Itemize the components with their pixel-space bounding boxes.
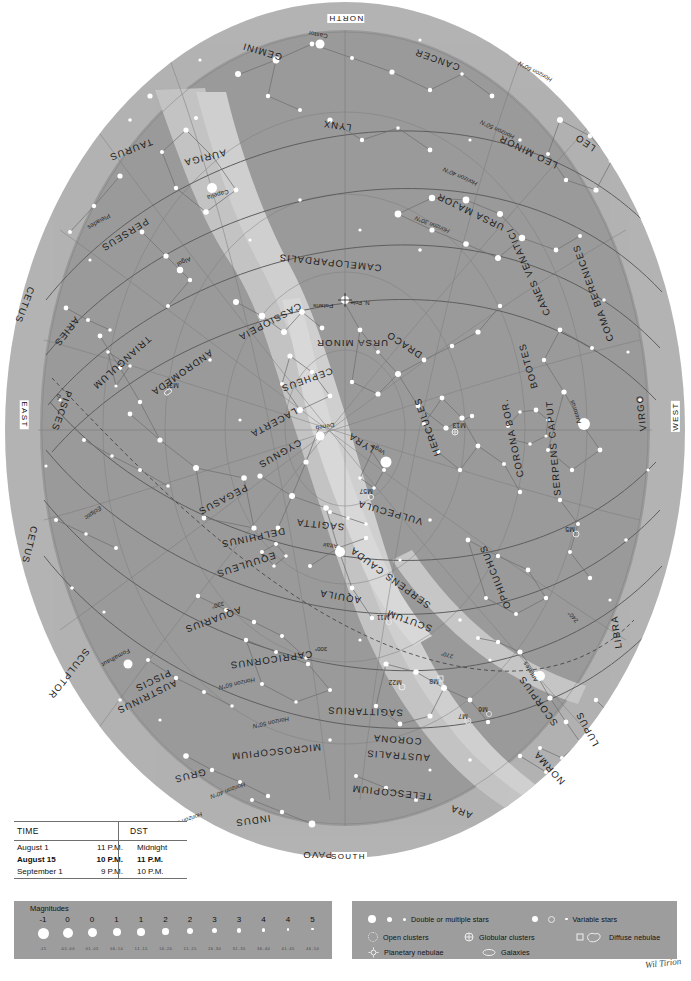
magnitude-dot-icon — [88, 928, 97, 937]
magnitude-value: 1 — [104, 915, 130, 924]
magnitude-dot-icon — [237, 928, 242, 933]
legend-globular-clusters: Globular clusters — [464, 931, 535, 943]
magnitude-entry: 2 — [177, 915, 203, 934]
legend-variable-stars-label: Variable stars — [573, 915, 618, 924]
legend-double-stars-label: Double or multiple stars — [411, 915, 489, 924]
legend-galaxies-label: Galaxies — [501, 948, 530, 957]
galaxy-icon — [482, 946, 496, 958]
time-row-time: 9 P.M. — [79, 867, 131, 876]
magnitude-entry: 0 — [79, 915, 105, 937]
magnitude-value: 5 — [300, 915, 326, 924]
magnitude-entry: 5 — [300, 915, 326, 930]
legend-planetary-nebulae-label: Planetary nebulae — [384, 948, 444, 957]
legend-diffuse-nebulae: Diffuse nebulae — [576, 931, 660, 943]
magnitude-dot-icon — [137, 928, 145, 936]
time-row-date: August 15 — [14, 855, 79, 864]
time-row-time: 11 P.M. — [79, 843, 131, 852]
time-row-dst: Midnight — [131, 843, 167, 852]
magnitude-dot-icon — [38, 928, 49, 939]
magnitude-entry: 0 — [55, 915, 81, 938]
open-cluster-icon — [368, 931, 378, 943]
time-row-date: August 1 — [14, 843, 79, 852]
time-row-time: 10 P.M. — [79, 855, 131, 864]
legend-double-stars: Double or multiple stars — [368, 913, 489, 925]
magnitude-dot-icon — [162, 928, 169, 935]
legend-open-clusters-label: Open clusters — [383, 933, 429, 942]
magnitude-dot-icon — [187, 928, 193, 934]
legend-diffuse-nebulae-label: Diffuse nebulae — [609, 933, 660, 942]
magnitude-dot-icon — [311, 928, 313, 930]
magnitude-entry: 3 — [226, 915, 252, 933]
magnitude-dot-icon — [63, 928, 73, 938]
magnitude-value: 0 — [55, 915, 81, 924]
legend-variable-stars: Variable stars — [532, 913, 617, 925]
magnitude-entry: 3 — [202, 915, 228, 933]
time-table-row: September 19 P.M.10 P.M. — [14, 865, 187, 877]
magnitude-value: 3 — [202, 915, 228, 924]
magnitude-entry: 4 — [275, 915, 301, 931]
legend-open-clusters: Open clusters — [368, 931, 429, 943]
star-chart-page: NORTH SOUTH EAST WEST GEMINICANCERLYNXLE… — [0, 0, 691, 981]
time-row-dst: 11 P.M. — [131, 855, 163, 864]
magnitude-entry: 4 — [251, 915, 277, 932]
sky-map-svg — [0, 0, 691, 860]
planetary-nebula-icon — [368, 946, 379, 958]
time-row-date: September 1 — [14, 867, 79, 876]
legend-galaxies: Galaxies — [482, 946, 530, 958]
magnitude-value: 0 — [79, 915, 105, 924]
double-star-icon — [368, 913, 406, 925]
magnitude-value: 4 — [251, 915, 277, 924]
time-table-row: August 1510 P.M.11 P.M. — [14, 853, 187, 865]
magnitude-legend-title: Magnitudes — [30, 904, 69, 913]
magnitude-value: 2 — [153, 915, 179, 924]
symbol-legend: Double or multiple stars Variable stars … — [352, 901, 677, 959]
magnitude-value: 4 — [275, 915, 301, 924]
magnitude-dot-icon — [212, 928, 217, 933]
time-table-header: TIME DST — [14, 822, 187, 841]
magnitude-dot-icon — [113, 928, 121, 936]
magnitude-value: 3 — [226, 915, 252, 924]
sky-map: NORTH SOUTH EAST WEST GEMINICANCERLYNXLE… — [0, 0, 691, 860]
legend-globular-clusters-label: Globular clusters — [479, 933, 535, 942]
magnitude-entry: -1 — [30, 915, 56, 939]
diffuse-nebula-icon — [576, 931, 604, 943]
magnitude-value: 1 — [128, 915, 154, 924]
magnitude-entry: 2 — [153, 915, 179, 935]
time-column-header: TIME — [14, 826, 124, 836]
magnitude-range: 4.6 - 5.0 — [298, 947, 328, 951]
magnitude-entry: 1 — [104, 915, 130, 936]
variable-star-icon — [532, 913, 568, 925]
globular-cluster-icon — [464, 931, 474, 943]
time-table-rows: August 111 P.M.MidnightAugust 1510 P.M.1… — [14, 841, 187, 877]
magnitude-value: 2 — [177, 915, 203, 924]
legend-planetary-nebulae: Planetary nebulae — [368, 946, 444, 958]
magnitude-entry: 1 — [128, 915, 154, 936]
dst-column-header: DST — [124, 826, 148, 836]
time-row-dst: 10 P.M. — [131, 867, 164, 876]
magnitude-dot-icon — [287, 928, 290, 931]
time-table-row: August 111 P.M.Midnight — [14, 841, 187, 853]
time-table: TIME DST August 111 P.M.MidnightAugust 1… — [14, 821, 187, 879]
magnitude-legend: Magnitudes -1-1.50-0.5 - 0.000.1 - 0.510… — [14, 901, 332, 959]
magnitude-dot-icon — [262, 928, 266, 932]
magnitude-value: -1 — [30, 915, 56, 924]
